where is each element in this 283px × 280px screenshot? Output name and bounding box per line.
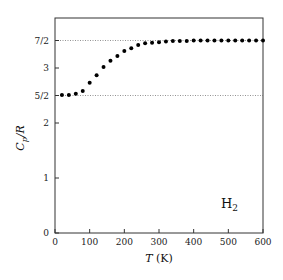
data-point [115, 54, 119, 58]
data-point [74, 92, 78, 96]
y-tick-label: 7/2 [35, 36, 49, 46]
data-point [254, 39, 258, 43]
data-point [129, 46, 133, 50]
data-point [164, 40, 168, 44]
data-points [60, 39, 265, 97]
data-point [212, 39, 216, 43]
data-point [240, 39, 244, 43]
x-tick-label: 600 [254, 237, 271, 247]
data-point [233, 39, 237, 43]
data-point [60, 93, 64, 97]
data-point [178, 39, 182, 43]
y-tick-label: 2 [43, 118, 49, 128]
data-point [171, 39, 175, 43]
y-tick-label: 5/2 [35, 91, 49, 101]
species-annotation: H2 [221, 196, 238, 213]
data-point [108, 59, 112, 63]
data-point [157, 40, 161, 44]
x-axis-ticks: 0100200300400500600 [52, 229, 272, 247]
data-point [185, 39, 189, 43]
x-tick-label: 300 [150, 237, 167, 247]
data-point [88, 81, 92, 85]
data-point [219, 39, 223, 43]
data-point [199, 39, 203, 43]
data-point [67, 93, 71, 97]
data-point [192, 39, 196, 43]
data-point [136, 43, 140, 47]
x-tick-label: 200 [116, 237, 133, 247]
x-tick-label: 500 [220, 237, 237, 247]
heat-capacity-chart: 0100200300400500600 0125/237/2 T (K) Cp/… [0, 0, 283, 280]
data-point [150, 41, 154, 45]
data-point [95, 73, 99, 77]
data-point [226, 39, 230, 43]
data-point [81, 89, 85, 93]
x-tick-label: 0 [52, 237, 58, 247]
x-tick-label: 100 [81, 237, 98, 247]
data-point [143, 41, 147, 45]
data-point [122, 49, 126, 53]
x-axis-label: T (K) [145, 252, 173, 265]
data-point [206, 39, 210, 43]
y-tick-label: 3 [43, 63, 49, 73]
y-tick-label: 0 [43, 228, 49, 238]
y-axis-label: Cp/R [14, 125, 29, 151]
data-point [102, 65, 106, 69]
data-point [247, 39, 251, 43]
reference-lines [55, 41, 263, 96]
data-point [261, 39, 265, 43]
x-tick-label: 400 [185, 237, 202, 247]
y-tick-label: 1 [43, 173, 49, 183]
